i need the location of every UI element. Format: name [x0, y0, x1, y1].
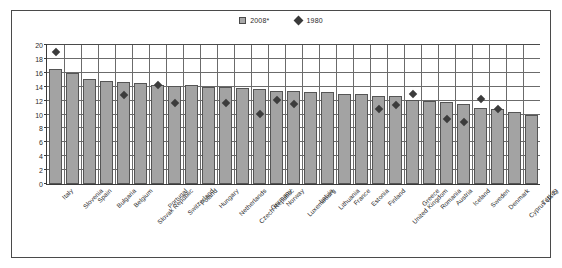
data-point-marker-1980[interactable]: [51, 48, 59, 56]
bar[interactable]: [185, 85, 199, 184]
diamond-marker-icon: [294, 16, 304, 26]
legend-entry-1980: 1980: [295, 17, 322, 24]
bar-slot[interactable]: [336, 45, 353, 184]
bar[interactable]: [304, 92, 318, 184]
bar-slot[interactable]: [64, 45, 81, 184]
y-tick-label: 8: [39, 125, 43, 132]
bar[interactable]: [49, 69, 63, 184]
chart-legend: 2008* 1980: [12, 17, 550, 24]
bar[interactable]: [270, 91, 284, 184]
bar-slot[interactable]: [268, 45, 285, 184]
bar-slot[interactable]: [438, 45, 455, 184]
bar-slot[interactable]: [98, 45, 115, 184]
bar-slot[interactable]: [387, 45, 404, 184]
bar-slot[interactable]: [472, 45, 489, 184]
y-tick-label: 14: [35, 83, 43, 90]
bar[interactable]: [66, 73, 80, 184]
bar-slot[interactable]: [523, 45, 540, 184]
bar[interactable]: [474, 108, 488, 184]
square-swatch-icon: [239, 17, 246, 24]
y-tick-label: 4: [39, 153, 43, 160]
bar-slot[interactable]: [319, 45, 336, 184]
bar[interactable]: [134, 83, 148, 184]
bar-slot[interactable]: [217, 45, 234, 184]
x-axis-label: Italy: [60, 187, 74, 201]
plot-area: 02468101214161820: [46, 45, 540, 185]
bar-slot[interactable]: [47, 45, 64, 184]
y-tick-label: 0: [39, 181, 43, 188]
chart-figure: 2008* 1980 02468101214161820 ItalySloven…: [0, 0, 562, 268]
bar-slot[interactable]: [166, 45, 183, 184]
bar[interactable]: [338, 94, 352, 184]
bar-slot[interactable]: [81, 45, 98, 184]
bar-slot[interactable]: [115, 45, 132, 184]
bar[interactable]: [423, 101, 437, 184]
bar-slot[interactable]: [421, 45, 438, 184]
bar-slot[interactable]: [353, 45, 370, 184]
x-axis-label: Estonia: [370, 187, 391, 208]
x-axis-label: Finland: [387, 187, 407, 207]
bar-slot[interactable]: [251, 45, 268, 184]
y-tick-label: 18: [35, 55, 43, 62]
chart-frame: 2008* 1980 02468101214161820 ItalySloven…: [11, 10, 551, 258]
bar[interactable]: [202, 87, 216, 184]
bar-slot[interactable]: [183, 45, 200, 184]
bar[interactable]: [508, 112, 522, 184]
y-tick-label: 20: [35, 42, 43, 49]
bar[interactable]: [457, 104, 471, 184]
bar-slot[interactable]: [404, 45, 421, 184]
y-tick-label: 2: [39, 167, 43, 174]
y-tick-label: 10: [35, 111, 43, 118]
x-axis-label: Hungary: [217, 187, 240, 210]
bar[interactable]: [491, 109, 505, 184]
bar-slot[interactable]: [489, 45, 506, 184]
bar-slot[interactable]: [200, 45, 217, 184]
bar-slot[interactable]: [285, 45, 302, 184]
bar[interactable]: [355, 94, 369, 184]
bar-slot[interactable]: [455, 45, 472, 184]
bar[interactable]: [83, 79, 97, 184]
bar[interactable]: [525, 115, 539, 185]
x-axis-label: Turkey: [539, 187, 558, 206]
bar-slot[interactable]: [132, 45, 149, 184]
bar[interactable]: [321, 92, 335, 184]
bar-series-2008: [47, 45, 540, 184]
x-axis-labels: ItalySloveniaSpainBulgariaBelgiumSlovak …: [46, 187, 540, 267]
data-point-marker-1980[interactable]: [476, 95, 484, 103]
bar[interactable]: [253, 89, 267, 184]
y-tick-label: 16: [35, 69, 43, 76]
legend-label-2008: 2008*: [250, 17, 269, 24]
x-axis-label: Denmark: [507, 187, 531, 211]
legend-label-1980: 1980: [306, 17, 322, 24]
bar[interactable]: [151, 85, 165, 184]
y-tick-label: 12: [35, 97, 43, 104]
y-tick-label: 6: [39, 139, 43, 146]
bar-slot[interactable]: [506, 45, 523, 184]
x-axis-label: Slovak Republic: [156, 187, 194, 225]
bar-slot[interactable]: [234, 45, 251, 184]
bar-slot[interactable]: [370, 45, 387, 184]
legend-entry-2008: 2008*: [239, 17, 269, 24]
bar-slot[interactable]: [149, 45, 166, 184]
bar[interactable]: [406, 100, 420, 184]
bar[interactable]: [100, 81, 114, 184]
bar-slot[interactable]: [302, 45, 319, 184]
bar[interactable]: [236, 88, 250, 184]
data-point-marker-1980[interactable]: [408, 89, 416, 97]
